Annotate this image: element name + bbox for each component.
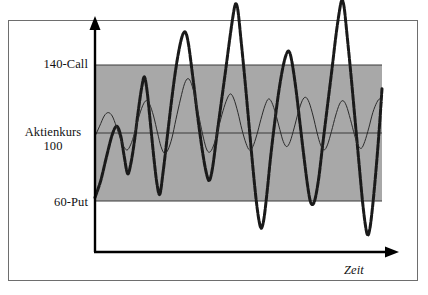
y-axis-arrowhead <box>90 16 101 30</box>
axis-label-reference-name: Aktienkurs <box>16 125 90 139</box>
axis-label-reference: Aktienkurs 100 <box>16 125 90 153</box>
x-axis-title: Zeit <box>344 263 364 277</box>
axis-label-lower-barrier: 60-Put <box>16 195 88 209</box>
figure-canvas: 140-Call Aktienkurs 100 60-Put Zeit <box>0 0 428 295</box>
axis-label-reference-value: 100 <box>16 139 90 153</box>
x-axis-arrowhead <box>385 247 399 258</box>
axis-label-upper-barrier: 140-Call <box>16 57 88 71</box>
